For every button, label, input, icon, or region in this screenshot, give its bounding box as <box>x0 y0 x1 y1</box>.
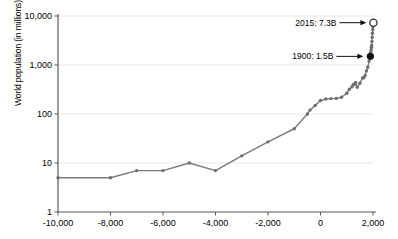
annotation-label: 2015: 7.3B <box>0 18 336 28</box>
axis-lines <box>58 14 376 212</box>
x-tick-label--6000: -6,000 <box>150 218 176 228</box>
annotation-leader-lines <box>336 20 366 59</box>
world-population-chart: World population (in millions) 10,0001,0… <box>0 0 398 239</box>
data-point-markers <box>56 21 375 179</box>
x-tick-label--4000: -4,000 <box>203 218 229 228</box>
plot-area <box>0 0 398 239</box>
x-tick-label--8000: -8,000 <box>98 218 124 228</box>
annotation-label: 1900: 1.5B <box>0 51 333 61</box>
x-tick-label--10000: -10,000 <box>43 218 74 228</box>
gridlines <box>58 16 373 163</box>
x-tick-label-2000: 2,000 <box>362 218 385 228</box>
x-tick-label--2000: -2,000 <box>255 218 281 228</box>
x-tick-label-0: 0 <box>318 218 323 228</box>
